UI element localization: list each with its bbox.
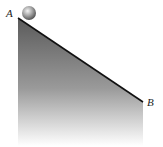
label-b: B [147,96,154,108]
ball [22,6,36,20]
incline-surface [18,18,143,146]
inclined-plane-diagram: A B [0,0,163,147]
label-a: A [5,7,13,19]
